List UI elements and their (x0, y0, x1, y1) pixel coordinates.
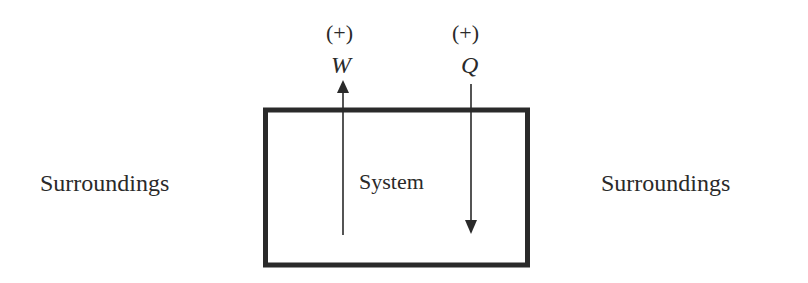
work-symbol: W (331, 52, 351, 79)
heat-sign: (+) (452, 20, 479, 46)
surroundings-right-label: Surroundings (601, 170, 730, 197)
system-label: System (359, 169, 424, 195)
work-sign: (+) (326, 20, 353, 46)
diagram-graphics (0, 0, 808, 283)
surroundings-left-label: Surroundings (40, 170, 169, 197)
heat-symbol: Q (461, 52, 478, 79)
work-arrow (337, 80, 349, 235)
heat-arrow (465, 84, 477, 234)
